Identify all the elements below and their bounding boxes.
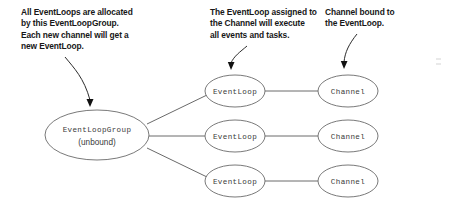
diagram-graphics: EventLoopGroup (unbound) EventLoop Event…	[0, 0, 451, 204]
channel-2-label: Channel	[331, 133, 365, 141]
channel-1-label: Channel	[331, 88, 365, 96]
leader-to-channel-line	[344, 34, 357, 62]
leader-to-channel-arrowhead	[341, 61, 348, 69]
leader-to-eventloop-arrowhead	[228, 62, 235, 70]
eventloopgroup-sublabel: (unbound)	[78, 138, 116, 147]
leader-to-eventloop-line	[231, 46, 247, 63]
eventloopgroup-ellipse	[45, 110, 149, 160]
scan-artifact-2	[436, 63, 441, 65]
eventloop-1-label: EventLoop	[213, 88, 257, 96]
node-channel-3: Channel	[318, 165, 378, 197]
node-channel-2: Channel	[318, 120, 378, 152]
node-eventloopgroup: EventLoopGroup (unbound)	[45, 110, 149, 160]
edge-group-to-eventloop-1	[147, 95, 207, 124]
eventloopgroup-label: EventLoopGroup	[63, 126, 132, 134]
node-eventloop-3: EventLoop	[205, 165, 265, 197]
node-eventloop-2: EventLoop	[205, 120, 265, 152]
scan-artifact-1	[436, 58, 441, 60]
edge-group-to-eventloop-3	[147, 148, 207, 177]
node-channel-1: Channel	[318, 75, 378, 107]
eventloop-3-label: EventLoop	[213, 178, 257, 186]
node-eventloop-1: EventLoop	[205, 75, 265, 107]
leader-to-channel	[341, 34, 357, 69]
leader-to-eventloopgroup-arrowhead	[87, 99, 94, 107]
leader-to-eventloop	[228, 46, 247, 70]
leader-to-eventloopgroup-line	[65, 57, 90, 100]
diagram-canvas: All EventLoops are allocated by this Eve…	[0, 0, 451, 204]
leader-to-eventloopgroup	[65, 57, 94, 107]
eventloop-2-label: EventLoop	[213, 133, 257, 141]
channel-3-label: Channel	[331, 178, 365, 186]
